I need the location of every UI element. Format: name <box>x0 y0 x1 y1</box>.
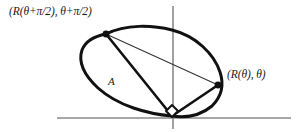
chord-origin-to-upper-left <box>106 34 172 116</box>
label-region-a: A <box>108 76 115 87</box>
convex-boundary-curve <box>81 26 222 116</box>
vertex-dot-right <box>215 82 222 89</box>
chord-upper-left-to-right <box>106 34 218 85</box>
convex-region-figure <box>0 0 296 132</box>
diagram-canvas: (R(θ+π/2), θ+π/2) (R(θ), θ) A <box>0 0 296 132</box>
label-upper-left-point: (R(θ+π/2), θ+π/2) <box>9 6 92 18</box>
vertex-dot-upper-left <box>103 31 110 38</box>
label-right-point: (R(θ), θ) <box>227 69 266 81</box>
